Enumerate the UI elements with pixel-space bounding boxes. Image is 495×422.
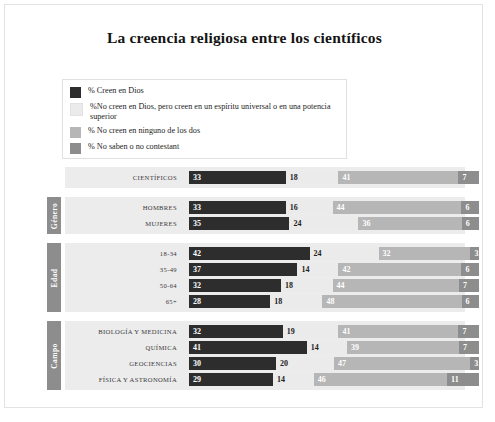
bar-row-label: Científicos xyxy=(65,171,183,184)
bar-segment-value: 7 xyxy=(463,279,467,292)
bar-segment: 41 xyxy=(338,171,458,184)
legend-item-label: %No creen en Dios, pero creen en un espí… xyxy=(90,102,340,123)
bar-segment: 24 xyxy=(289,217,358,230)
bar-segment: 39 xyxy=(347,341,459,354)
group-tab-label: Género xyxy=(50,202,59,228)
bar-segment-value: 7 xyxy=(462,171,466,184)
bar-segment-value: 18 xyxy=(274,295,282,308)
bar-segment-value: 24 xyxy=(314,247,322,260)
bar-track: 2818486 xyxy=(189,295,479,308)
bar-row: 35-493714426 xyxy=(65,263,465,276)
bar-track: 3524366 xyxy=(189,217,479,230)
bar-segment-value: 33 xyxy=(193,171,201,184)
bar-segment: 7 xyxy=(459,279,479,292)
bar-track: 3318417 xyxy=(189,171,479,184)
bar-segment-value: 29 xyxy=(193,373,201,386)
bar-segment: 37 xyxy=(189,263,297,276)
bar-segment: 48 xyxy=(322,295,461,308)
bar-segment-value: 11 xyxy=(451,373,459,386)
bar-segment: 33 xyxy=(189,171,286,184)
bar-row-label: Hombres xyxy=(65,201,183,214)
chart-group: CampoBiología y medicina3219417Química41… xyxy=(45,321,465,390)
bar-row-label: Física y astronomía xyxy=(65,373,183,386)
bar-segment-value: 37 xyxy=(193,263,201,276)
bar-segment-value: 7 xyxy=(462,325,466,338)
bar-segment: 18 xyxy=(270,295,322,308)
bar-row: Física y astronomía29144611 xyxy=(65,373,465,386)
bar-segment-value: 47 xyxy=(338,357,346,370)
bar-segment: 30 xyxy=(189,357,276,370)
bar-segment-value: 6 xyxy=(465,263,469,276)
bar-segment-value: 6 xyxy=(465,201,469,214)
group-tab-label: Edad xyxy=(50,268,59,287)
bar-segment: 19 xyxy=(283,325,339,338)
bar-row-label: Mujeres xyxy=(65,217,183,230)
legend-swatch-icon xyxy=(70,143,81,154)
bar-segment-value: 41 xyxy=(342,325,350,338)
legend-item: %No creen en Dios, pero creen en un espí… xyxy=(70,102,346,123)
bar-track: 4224323 xyxy=(189,247,479,260)
bar-row: Geociencias3020473 xyxy=(65,357,465,370)
bar-segment-value: 48 xyxy=(326,295,334,308)
bar-segment: 14 xyxy=(307,341,347,354)
bar-segment: 18 xyxy=(281,279,333,292)
bar-row-label: Biología y medicina xyxy=(65,325,183,338)
bar-segment-value: 44 xyxy=(337,201,345,214)
legend-swatch-icon xyxy=(70,103,83,116)
bar-segment-value: 39 xyxy=(351,341,359,354)
bar-segment-value: 44 xyxy=(337,279,345,292)
bar-segment-value: 6 xyxy=(466,217,470,230)
bar-segment: 20 xyxy=(276,357,334,370)
legend-item: % No creen en ninguno de los dos xyxy=(70,126,346,138)
bar-segment-value: 36 xyxy=(362,217,370,230)
bar-segment: 14 xyxy=(297,263,338,276)
bar-segment-value: 24 xyxy=(293,217,301,230)
bar-segment-value: 42 xyxy=(342,263,350,276)
legend-swatch-icon xyxy=(70,127,81,138)
bar-segment: 41 xyxy=(338,325,458,338)
bar-segment-value: 16 xyxy=(290,201,298,214)
chart-plot-area: Científicos3318417GéneroHombres3316446Mu… xyxy=(5,167,484,402)
bar-segment: 3 xyxy=(470,247,479,260)
bar-segment: 35 xyxy=(189,217,289,230)
bar-track: 4114397 xyxy=(189,341,479,354)
chart-legend: % Creen en Dios%No creen en Dios, pero c… xyxy=(62,79,347,159)
bar-row: Mujeres3524366 xyxy=(65,217,465,230)
bar-segment-value: 3 xyxy=(474,357,478,370)
bar-segment-value: 32 xyxy=(383,247,391,260)
bar-segment: 7 xyxy=(458,171,479,184)
bar-row-label: Geociencias xyxy=(65,357,183,370)
page-title: La creencia religiosa entre los científi… xyxy=(5,29,484,47)
bar-row-label: 50-64 xyxy=(65,279,183,292)
group-tab-label: Campo xyxy=(50,343,59,369)
bar-segment-value: 32 xyxy=(193,279,201,292)
bar-segment: 6 xyxy=(461,263,479,276)
bar-segment: 7 xyxy=(458,325,479,338)
bar-segment: 32 xyxy=(189,325,283,338)
bar-row-label: 18-34 xyxy=(65,247,183,260)
bar-track: 3218447 xyxy=(189,279,479,292)
bar-row: Química4114397 xyxy=(65,341,465,354)
legend-item: % Creen en Dios xyxy=(70,86,346,98)
bar-track: 3219417 xyxy=(189,325,479,338)
bar-segment: 28 xyxy=(189,295,270,308)
group-tab: Edad xyxy=(47,243,61,312)
bar-segment-value: 14 xyxy=(301,263,309,276)
bar-segment-value: 35 xyxy=(193,217,201,230)
bar-track: 3316446 xyxy=(189,201,479,214)
bar-segment-value: 3 xyxy=(474,247,478,260)
bar-row: Hombres3316446 xyxy=(65,201,465,214)
bar-segment-value: 28 xyxy=(193,295,201,308)
bar-row: Biología y medicina3219417 xyxy=(65,325,465,338)
bar-segment: 18 xyxy=(286,171,339,184)
bar-segment: 36 xyxy=(358,217,461,230)
legend-swatch-icon xyxy=(70,87,81,98)
bar-segment-value: 32 xyxy=(193,325,201,338)
bar-segment: 44 xyxy=(333,279,459,292)
bar-segment: 32 xyxy=(189,279,281,292)
legend-item: % No saben o no contestant xyxy=(70,142,346,154)
bar-segment-value: 41 xyxy=(193,341,201,354)
bar-segment-value: 18 xyxy=(290,171,298,184)
bar-segment: 7 xyxy=(459,341,479,354)
bar-track: 3714426 xyxy=(189,263,479,276)
